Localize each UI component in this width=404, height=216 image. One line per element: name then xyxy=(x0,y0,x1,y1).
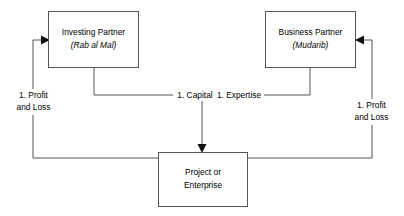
arrow-head-project xyxy=(198,144,207,153)
arrow-head-business-partner xyxy=(355,36,364,45)
node-label-business-partner-line2: (Mudarib) xyxy=(293,40,329,50)
edge-label-profit-loss-left-line1: 1. Profit xyxy=(19,90,49,100)
node-label-project-enterprise-line2: Enterprise xyxy=(184,180,223,190)
edge-line-capital xyxy=(94,67,175,95)
edge-label-capital: 1. Capital xyxy=(177,90,213,100)
mudarabah-diagram: Investing Partner (Rab al Mal) Business … xyxy=(0,0,404,216)
edge-line-expertise xyxy=(257,67,310,95)
edge-label-expertise: 1. Expertise xyxy=(217,90,262,100)
edge-label-profit-loss-right-line2: and Loss xyxy=(355,112,389,122)
node-label-investing-partner-line2: (Rab al Mal) xyxy=(71,40,117,50)
node-label-project-enterprise-line1: Project or xyxy=(185,167,221,177)
node-label-business-partner-line1: Business Partner xyxy=(279,27,343,37)
edge-label-profit-loss-right-line1: 1. Profit xyxy=(357,100,387,110)
diagram-canvas: Investing Partner (Rab al Mal) Business … xyxy=(0,0,404,216)
node-label-investing-partner-line1: Investing Partner xyxy=(62,27,126,37)
edge-label-profit-loss-left-line2: and Loss xyxy=(17,102,51,112)
